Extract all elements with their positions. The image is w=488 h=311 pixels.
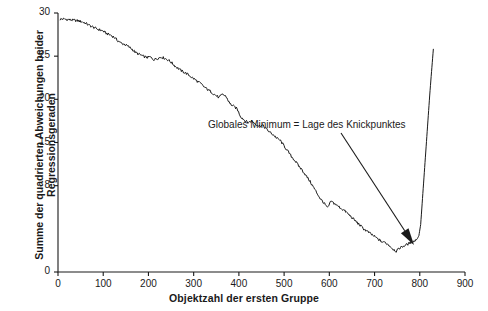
series-line-0 (60, 18, 433, 252)
x-axis-tick-label: 0 (38, 278, 78, 289)
annotation-arrow (341, 133, 414, 245)
y-axis-tick-label: 0 (12, 265, 50, 276)
x-axis-tick-label: 400 (219, 278, 259, 289)
data-series-line (60, 18, 433, 252)
x-axis-tick-label: 200 (128, 278, 168, 289)
axis-ticks (54, 13, 465, 276)
x-axis-tick-label: 900 (445, 278, 485, 289)
y-axis-tick-label: 15 (12, 136, 50, 147)
annotation-label: Globales Minimum = Lage des Knickpunktes (208, 119, 406, 130)
annotation-arrowhead (401, 228, 414, 245)
x-axis-tick-label: 700 (355, 278, 395, 289)
x-axis-tick-label: 600 (309, 278, 349, 289)
chart-plot-area (0, 0, 488, 311)
x-axis-tick-label: 300 (174, 278, 214, 289)
y-axis-tick-label: 20 (12, 92, 50, 103)
chart-figure: Summe der quadrierten Abweichungen beide… (0, 0, 488, 311)
x-axis-tick-label: 500 (264, 278, 304, 289)
y-axis-tick-label: 30 (12, 6, 50, 17)
x-axis-title: Objektzahl der ersten Gruppe (0, 292, 488, 304)
x-axis-tick-label: 800 (400, 278, 440, 289)
y-axis-tick-label: 25 (12, 49, 50, 60)
y-axis-tick-label: 8 (12, 179, 50, 190)
x-axis-tick-label: 100 (83, 278, 123, 289)
